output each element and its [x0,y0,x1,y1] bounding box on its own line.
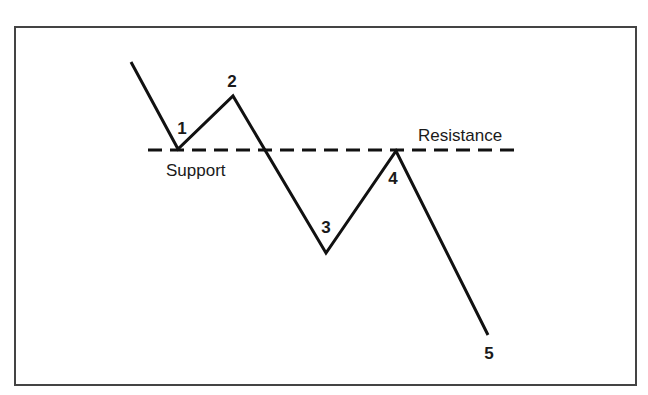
support-label: Support [166,161,226,180]
point-label-4: 4 [388,169,398,188]
resistance-label: Resistance [418,126,502,145]
point-label-2: 2 [227,72,236,91]
point-label-3: 3 [321,218,330,237]
support-resistance-diagram: Support Resistance 12345 [0,0,648,395]
price-path-line [131,62,488,335]
point-label-1: 1 [177,119,186,138]
point-label-5: 5 [484,344,493,363]
point-labels: 12345 [177,72,493,363]
diagram-frame [15,27,636,385]
